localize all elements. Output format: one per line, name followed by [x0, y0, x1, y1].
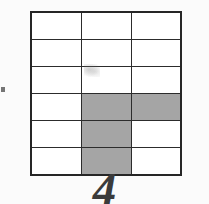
grid-cell-empty	[131, 40, 181, 67]
grid-cell-empty	[131, 67, 181, 94]
grid-cell-empty	[31, 121, 81, 148]
grid-row	[31, 67, 181, 94]
grid-body	[31, 12, 181, 175]
figure-container: 4	[0, 0, 209, 204]
grid-cell-empty	[81, 40, 131, 67]
grid-row	[31, 94, 181, 121]
grid-cell-shaded	[131, 94, 181, 121]
grid-cell-empty	[81, 12, 131, 40]
grid-cell-empty	[31, 40, 81, 67]
grid-cell-empty	[131, 121, 181, 148]
figure-number-caption: 4	[0, 168, 209, 204]
grid-row	[31, 40, 181, 67]
grid-cell-empty	[31, 67, 81, 94]
grid-cell-empty	[131, 12, 181, 40]
grid-cell-empty	[31, 12, 81, 40]
grid-row	[31, 121, 181, 148]
grid-row	[31, 12, 181, 40]
grid-cell-empty	[31, 94, 81, 121]
grid-cell-empty	[81, 67, 131, 94]
shaded-grid	[30, 11, 182, 176]
left-edge-tick-artifact	[1, 87, 5, 92]
grid-cell-shaded	[81, 94, 131, 121]
figure-number-glyph: 4	[93, 168, 117, 204]
grid-cell-shaded	[81, 121, 131, 148]
